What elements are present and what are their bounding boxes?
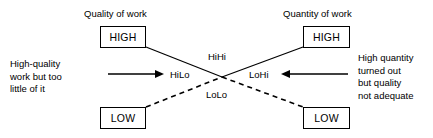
center-label-lohi: LoHi — [249, 69, 269, 81]
axis-title-quantity: Quantity of work — [283, 8, 352, 20]
axis-title-quality: Quality of work — [84, 8, 147, 20]
diagram-canvas: Quality of work Quantity of work HIGH HI… — [0, 0, 433, 138]
annotation-left-quality: High-quality work but too little of it — [10, 58, 62, 96]
left-annotation-arrow-icon — [108, 70, 164, 78]
box-quality-low[interactable]: LOW — [100, 107, 146, 129]
box-quantity-high[interactable]: HIGH — [303, 26, 350, 48]
center-label-hihi: HiHi — [208, 51, 226, 63]
center-label-hilo: HiLo — [170, 69, 190, 81]
box-quality-high[interactable]: HIGH — [100, 26, 146, 48]
line-center-to-low-quantity-dashed — [222, 77, 303, 107]
right-annotation-arrow-icon — [281, 70, 348, 78]
annotation-right-quantity: High quantity turned out but quality not… — [358, 52, 413, 102]
box-quantity-low[interactable]: LOW — [303, 107, 350, 129]
center-label-lolo: LoLo — [206, 89, 227, 101]
